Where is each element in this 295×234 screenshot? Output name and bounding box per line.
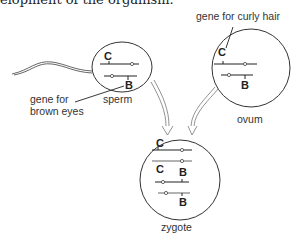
zygote-cell [140, 140, 220, 220]
zygote-gene-c2: C [156, 163, 164, 175]
zygote-gene-c1: C [156, 137, 164, 149]
fertilization-diagram: C B C B C C B B [0, 0, 295, 234]
sperm-tail [12, 62, 92, 75]
ovum-gene-c: C [218, 46, 226, 58]
arrow-ovum-to-zygote [188, 87, 218, 135]
ovum-cell [212, 29, 290, 107]
label-ovum: ovum [237, 113, 263, 125]
sperm-gene-b: B [125, 79, 133, 91]
label-sperm: sperm [103, 93, 132, 105]
sperm-cell [92, 42, 152, 92]
arrow-sperm-to-zygote [151, 80, 173, 135]
label-zygote: zygote [161, 221, 192, 233]
sperm-gene-c: C [104, 50, 112, 62]
zygote-gene-b2: B [179, 196, 187, 208]
label-curly-hair: gene for curly hair [196, 10, 281, 22]
label-brown-eyes-2: brown eyes [30, 105, 84, 117]
ovum-gene-b: B [241, 79, 249, 91]
zygote-gene-b1: B [179, 166, 187, 178]
label-brown-eyes-1: gene for [30, 93, 69, 105]
